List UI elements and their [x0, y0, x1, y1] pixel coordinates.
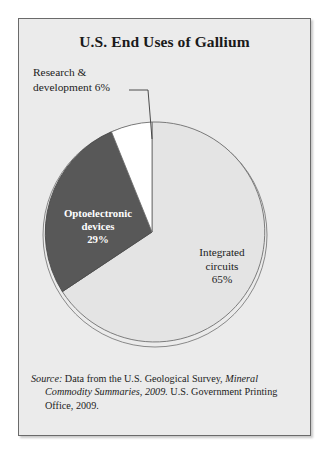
optoelectronic-line2: devices	[82, 220, 115, 232]
optoelectronic-value: 29%	[87, 233, 109, 245]
integrated-circuits-line1: Integrated	[199, 246, 244, 258]
integrated-circuits-value: 65%	[212, 273, 233, 285]
research-development-line1: Research &	[33, 66, 86, 78]
source-text-1: Data from the U.S. Geological Survey,	[62, 373, 225, 384]
label-optoelectronic-devices: Optoelectronic devices 29%	[36, 207, 160, 247]
integrated-circuits-line2: circuits	[206, 260, 239, 272]
optoelectronic-line1: Optoelectronic	[64, 207, 132, 219]
figure-panel: U.S. End Uses of Gallium Research & deve…	[18, 18, 311, 436]
source-note: Source: Data from the U.S. Geological Su…	[31, 372, 299, 412]
research-development-line2: development 6%	[33, 81, 110, 93]
label-research-development: Research & development 6%	[33, 65, 110, 94]
label-integrated-circuits: Integrated circuits 65%	[167, 246, 277, 287]
source-prefix: Source:	[31, 373, 62, 384]
